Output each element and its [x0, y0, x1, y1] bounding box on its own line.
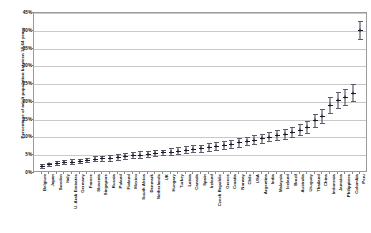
x-tick-label: Argentina	[263, 174, 268, 232]
error-bar-cap	[237, 138, 242, 139]
y-tick-label: 30%	[12, 63, 32, 68]
y-tick-mark	[32, 172, 34, 173]
error-bar-cap	[252, 144, 257, 145]
data-marker-stem	[87, 159, 88, 162]
error-bar-cap	[237, 147, 242, 148]
error-bar-cap	[336, 108, 341, 109]
data-marker-stem	[246, 140, 247, 143]
error-bar-cap	[191, 152, 196, 153]
error-bar-cap	[78, 163, 83, 164]
x-tick-label: Chile	[247, 174, 252, 232]
data-marker-stem	[102, 157, 103, 160]
error-bar-cap	[108, 161, 113, 162]
x-tick-mark	[200, 172, 201, 174]
data-marker-stem	[193, 147, 194, 150]
error-bar-cap	[229, 148, 234, 149]
data-marker-stem	[49, 163, 50, 166]
error-bar-cap	[275, 130, 280, 131]
error-bar-cap	[222, 141, 227, 142]
x-tick-mark	[261, 172, 262, 174]
error-bar-cap	[207, 143, 212, 144]
x-tick-mark	[147, 172, 148, 174]
x-tick-label: Uruguay	[308, 174, 313, 232]
x-tick-label: South Africa	[141, 174, 146, 232]
x-tick-label: India	[270, 174, 275, 232]
error-bar-cap	[176, 147, 181, 148]
data-marker-stem	[223, 143, 224, 146]
data-marker-stem	[94, 157, 95, 160]
x-tick-label: UK	[164, 174, 169, 232]
error-bar-cap	[245, 145, 250, 146]
error-bar-cap	[260, 134, 265, 135]
error-bar-cap	[336, 92, 341, 93]
x-tick-mark	[185, 172, 186, 174]
data-marker-stem	[155, 152, 156, 155]
error-bar-cap	[55, 165, 60, 166]
data-series	[34, 13, 366, 171]
x-tick-label: Russia	[111, 174, 116, 232]
error-bar-cap	[305, 121, 310, 122]
data-marker-stem	[56, 162, 57, 165]
x-tick-label: Indonesia	[331, 174, 336, 232]
error-bar-cap	[131, 158, 136, 159]
x-tick-mark	[223, 172, 224, 174]
x-tick-mark	[329, 172, 330, 174]
error-bar-cap	[283, 139, 288, 140]
x-tick-label: Singapore	[103, 174, 108, 232]
data-marker-stem	[71, 160, 72, 163]
error-bar-cap	[267, 132, 272, 133]
error-bar-cap	[351, 84, 356, 85]
data-marker-stem	[201, 147, 202, 150]
error-bar-cap	[85, 162, 90, 163]
error-bar-cap	[328, 97, 333, 98]
error-bar-cap	[214, 142, 219, 143]
x-tick-mark	[314, 172, 315, 174]
error-bar-cap	[328, 113, 333, 114]
error-bar-cap	[313, 127, 318, 128]
y-tick-label: 20%	[12, 98, 32, 103]
x-tick-label: France	[88, 174, 93, 232]
y-tick-label: 45%	[12, 10, 32, 15]
error-bar-cap	[283, 129, 288, 130]
error-bar-cap	[260, 143, 265, 144]
error-bar-cap	[214, 150, 219, 151]
x-tick-mark	[71, 172, 72, 174]
x-tick-label: Thailand	[316, 174, 321, 232]
data-marker-stem	[216, 144, 217, 147]
data-marker-stem	[254, 138, 255, 141]
data-marker-stem	[178, 149, 179, 152]
data-marker-stem	[238, 141, 239, 144]
error-bar-cap	[351, 101, 356, 102]
data-marker-stem	[314, 119, 315, 122]
x-tick-mark	[124, 172, 125, 174]
x-tick-label: Philippines	[346, 174, 351, 232]
error-bar-cap	[169, 155, 174, 156]
x-tick-label: Norway	[240, 174, 245, 232]
data-marker-stem	[337, 99, 338, 102]
data-marker-stem	[322, 115, 323, 118]
y-tick-label: 5%	[12, 152, 32, 157]
data-marker-stem	[125, 154, 126, 157]
error-bar-cap	[191, 145, 196, 146]
x-tick-label: Hungary	[171, 174, 176, 232]
x-tick-mark	[291, 172, 292, 174]
x-tick-label: Jamaica	[338, 174, 343, 232]
data-marker-stem	[261, 137, 262, 140]
y-tick-label: 40%	[12, 27, 32, 32]
data-marker-stem	[185, 148, 186, 151]
x-tick-mark	[162, 172, 163, 174]
data-marker-stem	[117, 156, 118, 159]
error-bar-cap	[343, 105, 348, 106]
error-bar-cap	[176, 154, 181, 155]
x-tick-mark	[352, 172, 353, 174]
x-tick-label: Peru	[361, 174, 366, 232]
x-tick-mark	[253, 172, 254, 174]
data-marker-stem	[284, 132, 285, 135]
data-marker-stem	[352, 91, 353, 94]
error-bar-cap	[229, 140, 234, 141]
chart-container: Percentage of adult population between 1…	[0, 0, 371, 233]
error-bar-cap	[138, 158, 143, 159]
error-bar-cap	[298, 135, 303, 136]
x-tick-label: Latvia	[187, 174, 192, 232]
plot-area	[33, 12, 367, 172]
